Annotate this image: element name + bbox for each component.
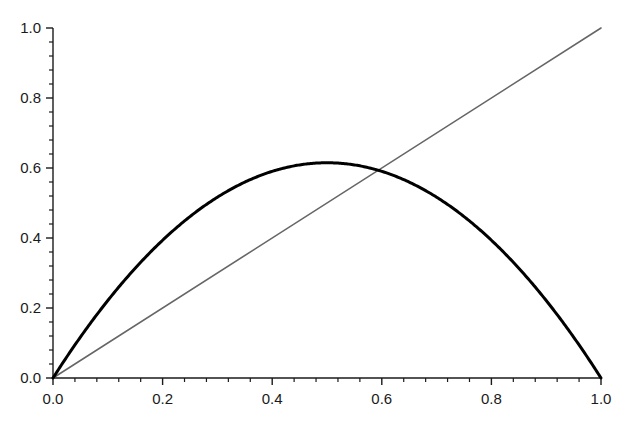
x-tick-label: 1.0 bbox=[591, 390, 612, 407]
y-tick-label: 0.0 bbox=[20, 369, 41, 386]
x-tick-label: 0.8 bbox=[481, 390, 502, 407]
logistic-map-plot: 0.00.20.40.60.81.0 0.00.20.40.60.81.0 bbox=[0, 0, 623, 421]
x-tick-label: 0.6 bbox=[371, 390, 392, 407]
x-tick-label: 0.2 bbox=[152, 390, 173, 407]
y-tick-label: 1.0 bbox=[20, 19, 41, 36]
x-tick-label: 0.4 bbox=[262, 390, 283, 407]
y-tick-label: 0.8 bbox=[20, 89, 41, 106]
figure-background bbox=[0, 0, 623, 421]
chart-figure: 0.00.20.40.60.81.0 0.00.20.40.60.81.0 bbox=[0, 0, 623, 421]
y-tick-label: 0.2 bbox=[20, 299, 41, 316]
y-tick-label: 0.6 bbox=[20, 159, 41, 176]
x-tick-label: 0.0 bbox=[43, 390, 64, 407]
y-tick-label: 0.4 bbox=[20, 229, 41, 246]
